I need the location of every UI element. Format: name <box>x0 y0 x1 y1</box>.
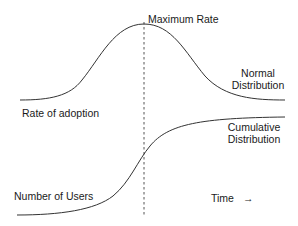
cumulative-distribution-label: Cumulative Distribution <box>222 121 286 145</box>
rate-of-adoption-label: Rate of adoption <box>22 107 99 119</box>
right-arrow-icon: → <box>243 192 254 204</box>
normal-label-line1: Normal <box>228 67 288 79</box>
time-label: Time <box>211 192 234 204</box>
normal-label-line2: Distribution <box>228 79 288 91</box>
number-of-users-label: Number of Users <box>14 190 93 202</box>
maximum-rate-label: Maximum Rate <box>148 13 219 25</box>
normal-distribution-label: Normal Distribution <box>228 67 288 91</box>
cumulative-label-line2: Distribution <box>222 133 286 145</box>
cumulative-label-line1: Cumulative <box>222 121 286 133</box>
time-axis-label: Time → <box>211 192 253 204</box>
